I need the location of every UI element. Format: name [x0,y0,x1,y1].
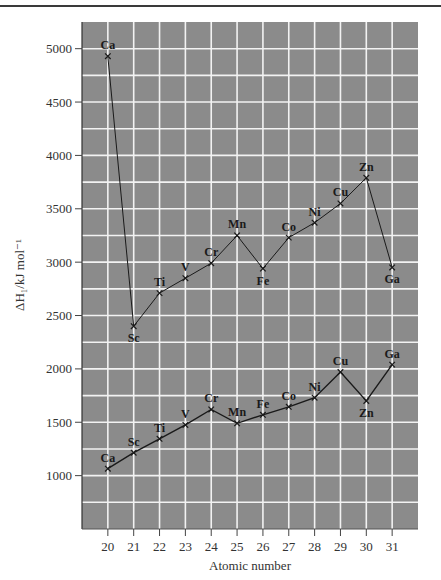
x-tick-label: 22 [153,539,166,554]
x-tick-label: 24 [205,539,219,554]
x-tick-label: 25 [231,539,244,554]
data-point-label: V [181,407,190,421]
data-point-label: Ga [384,272,399,286]
data-point-label: Sc [128,331,141,345]
data-point-label: Cr [204,245,219,259]
data-point-label: Co [281,220,296,234]
data-point-label: Ni [309,205,322,219]
x-tick-label: 23 [179,539,192,554]
data-point-label: Ti [154,275,166,289]
y-tick-label: 1500 [46,415,72,430]
x-tick-label: 21 [127,539,140,554]
line-chart: 100015002000250030003500400045005000 202… [0,0,441,580]
y-tick-label: 3500 [46,201,72,216]
y-tick-label: 5000 [46,41,72,56]
x-axis-title: Atomic number [209,558,292,573]
y-tick-label: 1000 [46,468,72,483]
data-point-label: Sc [128,435,141,449]
data-point-label: Mn [228,405,246,419]
y-tick-label: 4500 [46,95,72,110]
data-point-label: Cu [333,185,349,199]
data-point-label: Mn [228,217,246,231]
data-point-label: Fe [257,397,270,411]
data-point-label: Zn [359,406,374,420]
x-tick-label: 20 [101,539,114,554]
data-point-label: Ca [101,38,116,52]
x-axis-ticks: 202122232425262728293031 [101,529,398,554]
data-point-label: Fe [257,274,270,288]
data-point-label: Ca [101,451,116,465]
y-tick-label: 3000 [46,255,72,270]
data-point-label: Cu [333,354,349,368]
y-tick-label: 2000 [46,361,72,376]
data-point-label: Zn [359,160,374,174]
data-point-label: Cr [204,391,219,405]
y-axis-ticks: 100015002000250030003500400045005000 [46,41,82,483]
data-point-label: Ga [384,347,399,361]
data-point-label: Ti [154,421,166,435]
y-tick-label: 4000 [46,148,72,163]
x-tick-label: 29 [334,539,347,554]
x-tick-label: 27 [282,539,296,554]
x-tick-label: 28 [308,539,321,554]
x-tick-label: 31 [386,539,399,554]
x-tick-label: 30 [360,539,373,554]
y-tick-label: 2500 [46,308,72,323]
data-point-label: Ni [309,380,322,394]
data-point-label: Co [281,389,296,403]
data-point-label: V [181,260,190,274]
y-axis-title: ΔH₁/kJ mol⁻¹ [12,239,27,311]
x-tick-label: 26 [256,539,270,554]
